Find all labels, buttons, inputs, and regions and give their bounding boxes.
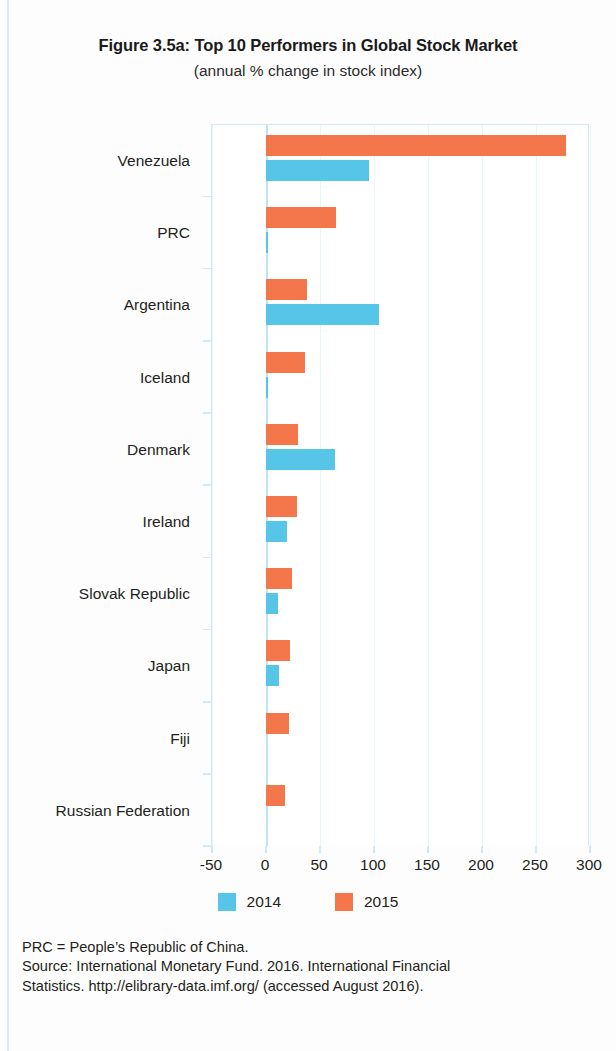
category-label: Argentina: [124, 296, 190, 314]
bar-2014: [266, 521, 287, 542]
bar-2014: [266, 232, 268, 253]
bar-row: Fiji: [212, 703, 588, 775]
legend-item-2014: 2014: [218, 893, 281, 911]
bar-2014: [266, 665, 279, 686]
category-tick: [203, 557, 212, 559]
x-tick-label: 250: [522, 856, 548, 874]
x-tick-200: [481, 846, 483, 853]
x-tick-label: -50: [200, 856, 222, 874]
bar-2014: [266, 377, 268, 398]
x-tick-300: [589, 846, 591, 853]
x-tick-label: 150: [414, 856, 440, 874]
category-tick: [203, 412, 212, 414]
bar-2014: [266, 160, 369, 181]
figure-title: Figure 3.5a: Top 10 Performers in Global…: [0, 36, 616, 56]
x-axis-ticks: [211, 846, 589, 854]
bar-2014: [266, 449, 335, 470]
gridline-300: [590, 125, 591, 846]
figure-title-block: Figure 3.5a: Top 10 Performers in Global…: [0, 36, 616, 80]
bar-row: PRC: [212, 197, 588, 269]
x-tick-label: 0: [261, 856, 270, 874]
chart-legend: 20142015: [0, 893, 616, 911]
x-tick-label: 300: [576, 856, 602, 874]
bar-row: Slovak Republic: [212, 558, 588, 630]
category-label: Ireland: [143, 513, 190, 531]
bar-row: Venezuela: [212, 125, 588, 197]
bar-chart-plot-area: VenezuelaPRCArgentinaIcelandDenmarkIrela…: [211, 124, 589, 846]
x-tick-50: [319, 846, 321, 853]
bar-row: Ireland: [212, 486, 588, 558]
bar-2015: [266, 207, 336, 228]
category-tick: [203, 773, 212, 775]
x-tick-250: [535, 846, 537, 853]
figure-subtitle: (annual % change in stock index): [0, 62, 616, 81]
category-label: Denmark: [127, 441, 190, 459]
category-tick: [203, 484, 212, 486]
bar-2015: [266, 713, 289, 734]
x-tick-0: [265, 846, 267, 853]
note-source-line-2: Statistics. http://elibrary-data.imf.org…: [22, 977, 602, 996]
bar-row: Iceland: [212, 342, 588, 414]
bar-2015: [266, 135, 566, 156]
x-tick-100: [373, 846, 375, 853]
bar-row: Denmark: [212, 414, 588, 486]
x-tick-label: 200: [468, 856, 494, 874]
x-tick-150: [427, 846, 429, 853]
x-tick--50: [211, 846, 213, 853]
bar-2015: [266, 424, 298, 445]
category-label: Venezuela: [118, 152, 190, 170]
legend-label: 2015: [364, 893, 398, 911]
figure-page: Figure 3.5a: Top 10 Performers in Global…: [0, 0, 616, 1051]
x-tick-label: 100: [360, 856, 386, 874]
legend-swatch-icon: [335, 893, 353, 911]
legend-swatch-icon: [218, 893, 236, 911]
bar-2015: [266, 568, 292, 589]
bar-rows: VenezuelaPRCArgentinaIcelandDenmarkIrela…: [212, 125, 588, 846]
category-label: Iceland: [140, 369, 190, 387]
category-label: Russian Federation: [56, 802, 190, 820]
bar-2014: [266, 593, 278, 614]
bar-row: Argentina: [212, 269, 588, 341]
note-source-line-1: Source: International Monetary Fund. 201…: [22, 957, 602, 976]
note-abbreviation: PRC = People’s Republic of China.: [22, 938, 602, 957]
category-label: PRC: [157, 224, 190, 242]
category-label: Japan: [148, 657, 190, 675]
bar-row: Japan: [212, 630, 588, 702]
category-tick: [203, 196, 212, 198]
category-tick: [203, 629, 212, 631]
category-tick: [203, 340, 212, 342]
bar-2015: [266, 640, 290, 661]
category-label: Fiji: [170, 730, 190, 748]
category-label: Slovak Republic: [79, 585, 190, 603]
legend-item-2015: 2015: [335, 893, 398, 911]
bar-row: Russian Federation: [212, 775, 588, 847]
x-tick-label: 50: [310, 856, 327, 874]
bar-2014: [266, 304, 379, 325]
category-tick: [203, 268, 212, 270]
legend-label: 2014: [247, 893, 281, 911]
figure-notes: PRC = People’s Republic of China. Source…: [22, 938, 602, 996]
x-axis-tick-labels: -50050100150200250300: [211, 856, 589, 880]
category-tick: [203, 701, 212, 703]
bar-2015: [266, 785, 285, 806]
bar-2015: [266, 279, 307, 300]
bar-2015: [266, 496, 297, 517]
bar-2015: [266, 352, 305, 373]
